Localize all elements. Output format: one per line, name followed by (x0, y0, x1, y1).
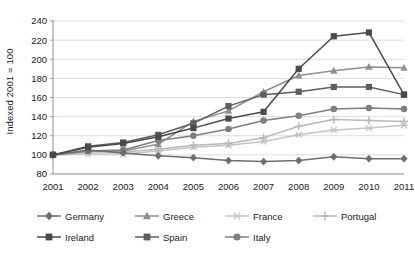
legend-item-greece[interactable]: Greece (134, 209, 194, 223)
legend-marker-triangle-icon (134, 209, 160, 223)
series-germany (49, 146, 407, 165)
legend-item-label: Greece (163, 211, 194, 222)
legend-marker-square-icon (134, 230, 160, 244)
data-point-marker (225, 157, 232, 165)
legend-item-spain[interactable]: Spain (134, 230, 187, 244)
data-point-marker (46, 234, 53, 241)
y-axis-tick-label: 160 (31, 92, 47, 103)
data-point-marker (225, 126, 232, 133)
line-chart-svg: 24022020018016014012010080 (20, 10, 408, 182)
data-point-marker (144, 234, 151, 241)
data-point-marker (190, 125, 196, 131)
x-axis-tick-label: 2008 (288, 181, 309, 192)
data-point-marker (225, 103, 231, 109)
y-axis-tick-label: 220 (31, 35, 47, 46)
legend-marker-circle-icon (224, 230, 250, 244)
data-point-marker (331, 84, 337, 90)
legend-item-label: Ireland (65, 232, 94, 243)
y-axis-title-label: Indexed 2001 = 100 (4, 48, 15, 134)
y-axis-tick-label: 80 (36, 168, 47, 179)
data-point-marker (261, 92, 267, 98)
y-axis-tick-label: 100 (31, 149, 47, 160)
legend-item-label: Portugal (341, 211, 376, 222)
data-point-marker (233, 233, 240, 240)
data-point-marker (321, 212, 330, 221)
legend-item-label: France (253, 211, 283, 222)
data-point-marker (85, 144, 91, 150)
legend-marker-diamond-icon (36, 209, 62, 223)
x-axis-tick-label: 2010 (358, 181, 379, 192)
data-point-marker (400, 155, 407, 163)
x-axis-tick-label: 2011 (394, 181, 414, 192)
data-point-marker (190, 132, 197, 139)
y-axis-title: Indexed 2001 = 100 (0, 0, 18, 182)
data-point-marker (401, 106, 408, 113)
chart-container: Indexed 2001 = 100 240220200180160140120… (0, 0, 415, 262)
legend-marker-asterisk-icon (224, 209, 250, 223)
series-ireland (50, 29, 407, 158)
legend-item-portugal[interactable]: Portugal (312, 209, 376, 223)
x-axis-tick-label: 2009 (323, 181, 344, 192)
data-point-marker (225, 115, 231, 121)
y-axis-tick-label: 120 (31, 130, 47, 141)
x-axis-tick-label: 2002 (78, 181, 99, 192)
legend-item-label: Germany (65, 211, 104, 222)
x-axis-tick-label: 2006 (218, 181, 239, 192)
series-line (53, 119, 404, 154)
data-point-marker (365, 116, 373, 124)
data-point-marker (50, 152, 56, 158)
x-axis-tick-label: 2005 (183, 181, 204, 192)
x-axis-tick-label: 2001 (42, 181, 63, 192)
data-point-marker (295, 122, 303, 130)
x-axis-tick-label: 2004 (148, 181, 169, 192)
data-point-marker (330, 153, 337, 161)
data-point-marker (365, 155, 372, 163)
data-point-marker (295, 132, 303, 138)
y-axis-tick-label: 140 (31, 111, 47, 122)
data-point-marker (296, 66, 302, 72)
data-point-marker (401, 92, 407, 98)
legend-marker-square-icon (36, 230, 62, 244)
legend-item-ireland[interactable]: Ireland (36, 230, 94, 244)
y-axis-tick-label: 200 (31, 54, 47, 65)
data-point-marker (295, 157, 302, 165)
x-axis-tick-label: 2003 (113, 181, 134, 192)
data-point-marker (331, 33, 337, 39)
data-point-marker (330, 127, 338, 133)
data-point-marker (366, 29, 372, 35)
legend-row: GermanyGreeceFrancePortugal (36, 209, 406, 229)
data-point-marker (232, 213, 241, 220)
data-point-marker (260, 117, 267, 124)
x-axis-tick-labels: 2001200220032004200520062007200820092010… (20, 181, 408, 197)
data-point-marker (366, 84, 372, 90)
legend-item-germany[interactable]: Germany (36, 209, 104, 223)
data-point-marker (120, 140, 126, 146)
data-point-marker (224, 139, 232, 147)
data-point-marker (295, 112, 302, 119)
legend-item-label: Italy (253, 232, 270, 243)
data-point-marker (366, 105, 373, 112)
data-point-marker (261, 109, 267, 115)
x-axis-tick-label: 2007 (253, 181, 274, 192)
legend-marker-plus-icon (312, 209, 338, 223)
data-point-marker (400, 117, 408, 125)
data-point-marker (260, 158, 267, 166)
y-axis-tick-label: 180 (31, 73, 47, 84)
legend-item-italy[interactable]: Italy (224, 230, 270, 244)
series-portugal (49, 115, 408, 158)
legend-item-label: Spain (163, 232, 187, 243)
legend-row: IrelandSpainItaly (36, 230, 406, 250)
plot-area: 24022020018016014012010080 (20, 10, 408, 182)
chart-legend: GermanyGreeceFrancePortugalIrelandSpainI… (36, 209, 406, 255)
data-point-marker (331, 106, 338, 113)
y-axis-tick-label: 240 (31, 15, 47, 26)
data-point-marker (365, 125, 373, 131)
series-line (53, 32, 404, 154)
data-point-marker (45, 212, 53, 221)
legend-item-france[interactable]: France (224, 209, 283, 223)
data-point-marker (155, 134, 161, 140)
data-point-marker (296, 89, 302, 95)
